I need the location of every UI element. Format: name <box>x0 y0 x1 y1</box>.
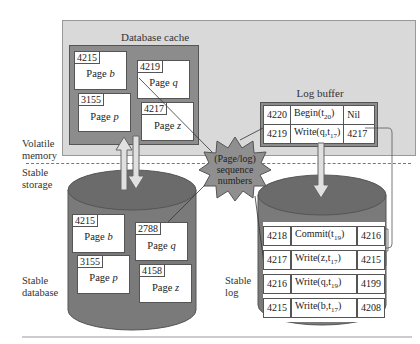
page-label: Page p <box>78 272 129 283</box>
record-lsn: 4215 <box>263 298 291 318</box>
disk-page-b: 4215 Page b <box>72 214 125 253</box>
record-op: Write(b,t17) <box>291 298 357 318</box>
record-lsn: 4218 <box>263 226 291 246</box>
log-record: 4216 Write(q,t19) 4199 <box>263 274 385 294</box>
starburst-label: (Page/log) sequence numbers <box>205 153 265 186</box>
page-lsn: 3155 <box>78 256 103 268</box>
record-op: Write(q,t19) <box>291 274 357 294</box>
record-prev-lsn: 4216 <box>357 226 385 246</box>
page-lsn: 2788 <box>136 223 161 235</box>
log-flush-arrow-icon <box>313 143 329 198</box>
record-prev-lsn: 4215 <box>357 250 385 270</box>
disk-page-p: 3155 Page p <box>77 255 130 294</box>
stable-log-table: 4218 Commit(t19) 4216 4217 Write(z,t17) … <box>263 222 385 322</box>
log-record: 4218 Commit(t19) 4216 <box>263 226 385 246</box>
log-record: 4217 Write(z,t17) 4215 <box>263 250 385 270</box>
record-prev-lsn: 4199 <box>357 274 385 294</box>
log-record: 4215 Write(b,t17) 4208 <box>263 298 385 318</box>
record-lsn: 4216 <box>263 274 291 294</box>
page-lsn: 4215 <box>73 215 98 227</box>
record-lsn: 4217 <box>263 250 291 270</box>
page-label: Page z <box>140 282 191 293</box>
page-lsn: 4158 <box>140 265 165 277</box>
record-prev-lsn: 4208 <box>357 298 385 318</box>
record-op: Write(z,t17) <box>291 250 357 270</box>
record-op: Commit(t19) <box>291 226 357 246</box>
page-label: Page b <box>73 231 124 242</box>
page-label: Page q <box>136 240 187 251</box>
disk-page-q: 2788 Page q <box>135 222 188 261</box>
disk-page-z: 4158 Page z <box>139 264 192 303</box>
